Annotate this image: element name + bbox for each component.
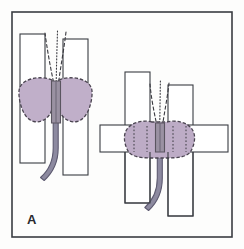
figure-panel: A bbox=[0, 0, 244, 249]
panel-letter: A bbox=[27, 212, 37, 227]
anatomical-diagram: A bbox=[0, 0, 244, 249]
right-view-trace-dotted-center bbox=[160, 81, 161, 126]
